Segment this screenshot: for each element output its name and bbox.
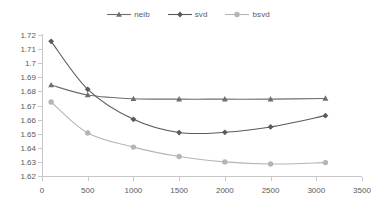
y-tick-label: 1.63 xyxy=(20,158,36,167)
x-tick-label: 2000 xyxy=(216,186,234,195)
data-point-circle xyxy=(48,99,53,104)
y-tick-label: 1.67 xyxy=(20,102,36,111)
data-point-circle xyxy=(131,144,136,149)
y-tick-label: 1.68 xyxy=(20,87,36,96)
y-tick-label: 1.65 xyxy=(20,130,36,139)
y-tick-label: 1.7 xyxy=(25,59,37,68)
y-tick-label: 1.62 xyxy=(20,172,36,181)
series-line-svd xyxy=(51,41,325,133)
data-point-diamond xyxy=(268,124,274,130)
line-chart: neibsvdbsvd 1.621.631.641.651.661.671.68… xyxy=(0,0,376,214)
data-point-circle xyxy=(176,154,181,159)
data-series xyxy=(48,38,328,166)
data-point-diamond xyxy=(131,116,137,122)
y-tick-label: 1.64 xyxy=(20,144,36,153)
x-tick-label: 2500 xyxy=(262,186,280,195)
data-point-diamond xyxy=(176,130,182,136)
data-point-circle xyxy=(85,130,90,135)
y-tick-label: 1.69 xyxy=(20,73,36,82)
data-point-circle xyxy=(222,159,227,164)
plot-svg: 1.621.631.641.651.661.671.681.691.71.711… xyxy=(0,0,376,214)
plot-area: 1.621.631.641.651.661.671.681.691.71.711… xyxy=(0,0,376,214)
data-point-diamond xyxy=(323,113,329,119)
data-point-diamond xyxy=(222,129,228,135)
y-axis-ticks: 1.621.631.641.651.661.671.681.691.71.711… xyxy=(20,31,42,181)
data-point-circle xyxy=(323,160,328,165)
series-svd xyxy=(48,38,328,135)
x-tick-label: 3500 xyxy=(353,186,371,195)
axis-lines xyxy=(43,34,363,177)
x-tick-label: 3000 xyxy=(307,186,325,195)
y-tick-label: 1.66 xyxy=(20,116,36,125)
x-axis-ticks: 0500100015002000250030003500 xyxy=(40,177,372,196)
x-tick-label: 1500 xyxy=(170,186,188,195)
data-point-circle xyxy=(268,161,273,166)
x-tick-label: 1000 xyxy=(125,186,143,195)
series-line-neib xyxy=(51,85,325,99)
y-tick-label: 1.72 xyxy=(20,31,36,40)
x-tick-label: 500 xyxy=(81,186,95,195)
x-tick-label: 0 xyxy=(40,186,45,195)
data-point-triangle xyxy=(48,82,54,87)
y-tick-label: 1.71 xyxy=(20,45,36,54)
